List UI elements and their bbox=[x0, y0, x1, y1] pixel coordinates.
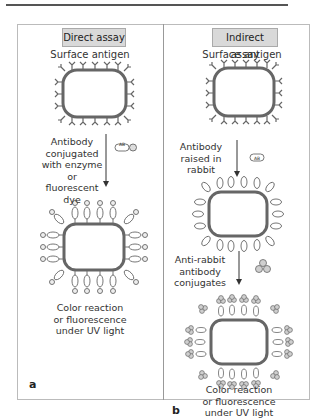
step1-label-line: raised in bbox=[170, 153, 232, 165]
step2-label-line: antibody bbox=[168, 266, 232, 278]
panel-letter-b: b bbox=[172, 404, 180, 417]
result-label: Color reaction or fluorescence under UV … bbox=[17, 302, 163, 337]
result-label: Color reaction or fluorescence under UV … bbox=[174, 384, 304, 419]
reagent-ab-label: AB bbox=[115, 142, 129, 147]
cell-with-antibodies-icon bbox=[164, 24, 310, 400]
step1-label: Antibody conjugated with enzyme or fluor… bbox=[37, 136, 107, 205]
panel-indirect-assay: Indirect assay Surface antigen bbox=[164, 24, 310, 400]
result-label-line: Color reaction bbox=[17, 302, 163, 314]
step1-label-line: Antibody bbox=[37, 136, 107, 148]
step1-label-line: Antibody bbox=[170, 141, 232, 153]
reagent-ab-label: AB bbox=[250, 156, 264, 161]
step1-label: Antibody raised in rabbit bbox=[170, 141, 232, 176]
step2-label-line: Anti-rabbit bbox=[168, 254, 232, 266]
step2-label: Anti-rabbit antibody conjugates bbox=[168, 254, 232, 289]
panel-letter-a: a bbox=[29, 378, 36, 391]
result-label-line: Color reaction bbox=[174, 384, 304, 396]
result-label-line: or fluorescence bbox=[174, 396, 304, 408]
result-label-line: or fluorescence bbox=[17, 314, 163, 326]
result-label-line: under UV light bbox=[174, 407, 304, 419]
step1-label-line: with enzyme or bbox=[37, 159, 107, 182]
top-rule bbox=[6, 4, 288, 6]
step1-label-line: fluorescent dye bbox=[37, 182, 107, 205]
result-label-line: under UV light bbox=[17, 325, 163, 337]
step2-label-line: conjugates bbox=[168, 277, 232, 289]
panel-direct-assay: Direct assay Surface antigen bbox=[17, 24, 163, 400]
cell-with-antigens-icon bbox=[17, 24, 163, 400]
step1-label-line: conjugated bbox=[37, 148, 107, 160]
step1-label-line: rabbit bbox=[170, 164, 232, 176]
